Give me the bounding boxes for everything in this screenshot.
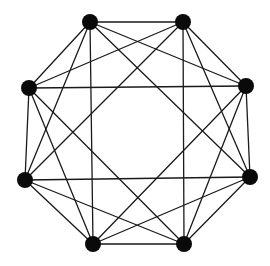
edge-B-G xyxy=(25,22,183,180)
edge-C-F xyxy=(93,86,246,244)
edge-E-H xyxy=(29,88,184,244)
node-layer xyxy=(17,14,258,252)
node-B xyxy=(175,14,191,30)
edge-D-F xyxy=(93,177,250,244)
edge-A-F xyxy=(90,22,93,244)
node-H xyxy=(21,80,37,96)
edge-C-H xyxy=(29,86,246,88)
edge-D-E xyxy=(184,177,250,244)
node-F xyxy=(85,236,101,252)
node-D xyxy=(242,169,258,185)
edge-E-G xyxy=(25,180,184,244)
node-C xyxy=(238,78,254,94)
node-E xyxy=(176,236,192,252)
edge-C-D xyxy=(246,86,250,177)
graph-diagram xyxy=(0,0,270,266)
edge-F-G xyxy=(25,180,93,244)
edge-B-H xyxy=(29,22,183,88)
node-G xyxy=(17,172,33,188)
edge-A-H xyxy=(29,22,90,88)
edge-B-D xyxy=(183,22,250,177)
edge-A-C xyxy=(90,22,246,86)
edge-B-C xyxy=(183,22,246,86)
edge-A-D xyxy=(90,22,250,177)
edge-G-H xyxy=(25,88,29,180)
edge-B-E xyxy=(183,22,184,244)
edge-D-G xyxy=(25,177,250,180)
edge-layer xyxy=(25,22,250,244)
node-A xyxy=(82,14,98,30)
